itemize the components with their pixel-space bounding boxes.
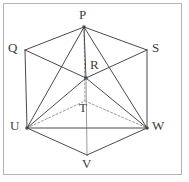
geometry-figure-svg [0, 0, 189, 182]
vertex-label-r: R [90, 58, 99, 71]
edge-Q-P [25, 27, 84, 50]
edge-P-U [27, 27, 84, 128]
edge-R-U [27, 78, 86, 128]
vertex-dot-w [145, 126, 149, 130]
vertex-dot-r [84, 76, 88, 80]
edge-T-W-hidden [85, 101, 147, 128]
vertex-label-v: V [82, 157, 91, 170]
vertex-label-u: U [10, 119, 19, 132]
edge-R-W [86, 78, 147, 128]
edge-V-W [87, 128, 147, 155]
vertex-label-q: Q [8, 41, 17, 54]
figure-border [4, 4, 182, 175]
edge-Q-U [25, 50, 27, 128]
vertex-dot-u [25, 126, 29, 130]
edge-Q-R [25, 50, 86, 78]
vertex-label-t: T [79, 101, 87, 114]
axis-lines-group [86, 78, 87, 155]
axis-R-V [86, 78, 87, 155]
vertex-label-w: W [152, 119, 164, 132]
edge-P-W [84, 27, 147, 128]
vertex-label-p: P [79, 8, 86, 21]
vertex-label-s: S [152, 41, 159, 54]
geometry-figure-panel: PQSRTUWV [0, 0, 189, 182]
vertex-dot-p [82, 25, 86, 29]
edge-P-S [84, 27, 147, 50]
edge-U-V [27, 128, 87, 155]
edge-U-T-hidden [27, 101, 85, 128]
